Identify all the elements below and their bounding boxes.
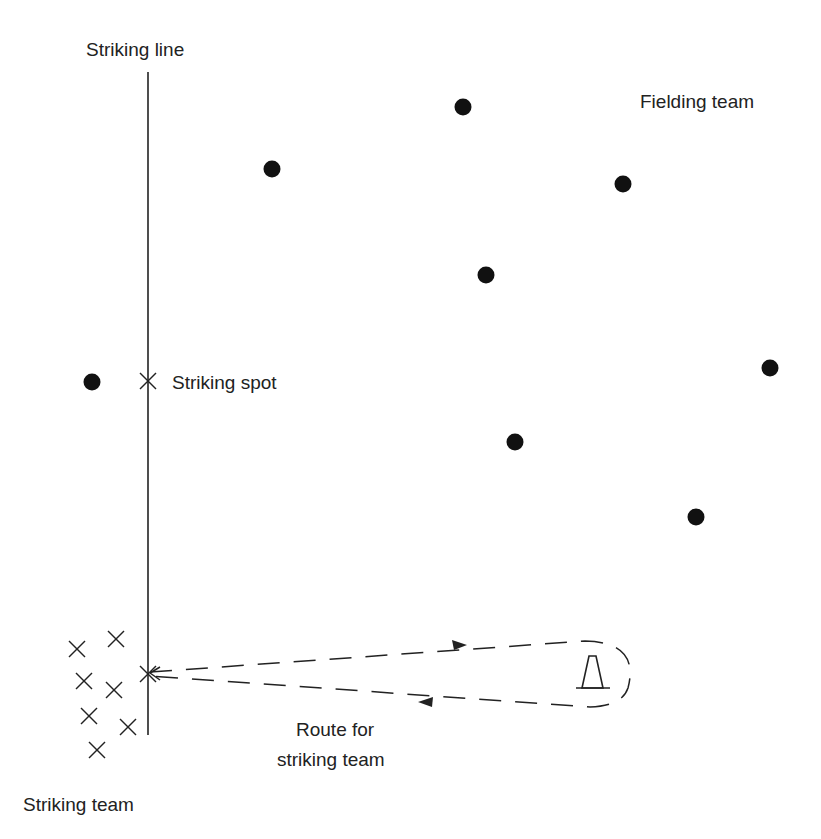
striker-cross-icon xyxy=(76,673,92,689)
fielder-dot xyxy=(507,434,524,451)
fielder-dot xyxy=(615,176,632,193)
cone-icon xyxy=(576,656,610,688)
fielder-dot xyxy=(455,99,472,116)
striker-cross-icon xyxy=(81,708,97,724)
striker-cross-icon xyxy=(106,682,122,698)
striker-cross-icon xyxy=(120,719,136,735)
fielders-group xyxy=(84,99,779,526)
fielder-dot xyxy=(478,267,495,284)
striking-line-label: Striking line xyxy=(86,39,184,60)
striker-cross-icon xyxy=(89,742,105,758)
striker-cross-icon xyxy=(108,631,124,647)
striker-cross-icon xyxy=(69,641,85,657)
fielder-dot xyxy=(84,374,101,391)
strikers-group xyxy=(69,631,156,758)
striking-fielding-diagram: Striking line Fielding team Striking spo… xyxy=(0,0,821,839)
fielder-dot xyxy=(264,161,281,178)
route-label-line2: striking team xyxy=(277,749,385,770)
striking-team-label: Striking team xyxy=(23,794,134,815)
striking-spot-label: Striking spot xyxy=(172,372,277,393)
route-label-line1: Route for xyxy=(296,719,375,740)
fielder-dot xyxy=(762,360,779,377)
fielder-dot xyxy=(688,509,705,526)
route-path xyxy=(150,641,630,707)
route-arrow-back-icon xyxy=(418,697,433,707)
fielding-team-label: Fielding team xyxy=(640,91,754,112)
route-arrow-out-icon xyxy=(452,640,467,650)
